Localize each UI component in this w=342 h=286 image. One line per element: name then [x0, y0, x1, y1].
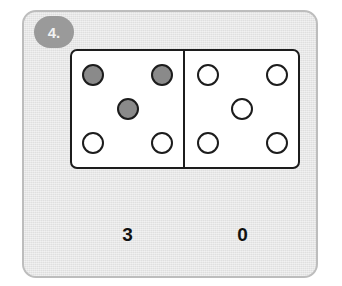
pip-right-center	[231, 98, 253, 120]
exercise-number-badge: 4.	[34, 16, 74, 48]
domino-tile	[70, 49, 300, 169]
domino-half-right	[185, 51, 298, 167]
pip-right-top-left	[197, 64, 219, 86]
answer-left: 3	[70, 219, 185, 251]
answer-row: 3 0	[70, 219, 300, 251]
pip-left-top-left	[82, 64, 104, 86]
pip-right-top-right	[266, 64, 288, 86]
pip-right-bottom-left	[197, 132, 219, 154]
exercise-card: 4. 3 0	[22, 10, 318, 278]
pip-left-bottom-right	[151, 132, 173, 154]
domino-half-left	[72, 51, 185, 167]
pip-left-top-right	[151, 64, 173, 86]
pip-left-center	[117, 98, 139, 120]
pip-right-bottom-right	[266, 132, 288, 154]
answer-right: 0	[185, 219, 300, 251]
pip-left-bottom-left	[82, 132, 104, 154]
